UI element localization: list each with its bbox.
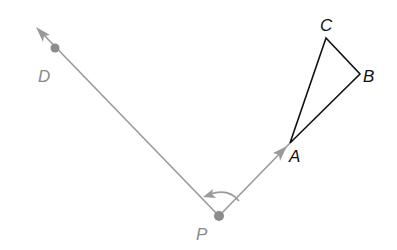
point-p (214, 211, 224, 221)
ray-pd (36, 27, 219, 216)
rotation-diagram: D P A B C (0, 0, 397, 250)
label-p: P (196, 225, 208, 244)
rotation-arc (203, 189, 239, 201)
label-b: B (363, 67, 374, 86)
ray-pa (219, 143, 290, 216)
triangle-abc (290, 38, 360, 143)
point-d (51, 44, 60, 53)
label-c: C (320, 16, 333, 35)
label-a: A (288, 147, 300, 166)
label-d: D (38, 67, 50, 86)
